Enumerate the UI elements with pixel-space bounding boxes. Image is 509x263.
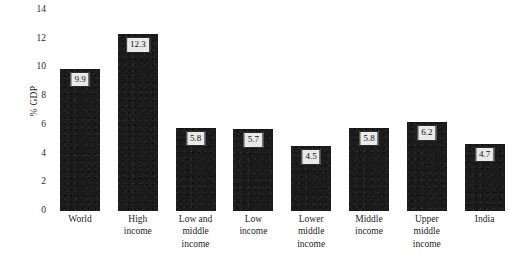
- y-tick-label-12: 12: [20, 34, 46, 44]
- x-axis-category-line: income: [283, 238, 339, 250]
- y-tick-label-10: 10: [20, 62, 46, 72]
- x-axis-category-line: income: [341, 225, 397, 237]
- bar-value-label: 4.7: [475, 147, 494, 163]
- bar-value-label: 9.9: [70, 72, 89, 88]
- x-axis-category-label: World: [52, 213, 108, 263]
- bar[interactable]: 5.8: [176, 128, 216, 211]
- y-tick-label-6: 6: [20, 120, 46, 130]
- y-tick-label-8: 8: [20, 91, 46, 101]
- bar-group: 4.7India: [457, 0, 509, 263]
- bar[interactable]: 4.7: [465, 144, 505, 211]
- y-tick-label-2: 2: [20, 177, 46, 187]
- bar-group: 12.3Highincome: [110, 0, 166, 263]
- bar-group: 4.5Lowermiddleincome: [283, 0, 339, 263]
- bar-value-label: 5.8: [186, 131, 205, 147]
- x-axis-category-line: income: [110, 225, 166, 237]
- bar-group: 5.8Middleincome: [341, 0, 397, 263]
- bar-value-label: 6.2: [417, 125, 436, 141]
- x-axis-category-label: Low andmiddleincome: [168, 213, 224, 263]
- bar[interactable]: 5.8: [349, 128, 389, 211]
- x-axis-category-line: income: [168, 238, 224, 250]
- bar[interactable]: 9.9: [60, 69, 100, 211]
- x-axis-category-line: income: [225, 225, 281, 237]
- x-axis-category-line: High: [110, 213, 166, 225]
- x-axis-category-line: middle: [168, 225, 224, 237]
- x-axis-category-line: Low and: [168, 213, 224, 225]
- y-tick-label-4: 4: [20, 149, 46, 159]
- bar-value-label: 4.5: [302, 149, 321, 165]
- x-axis-category-line: Low: [225, 213, 281, 225]
- bar-group: 5.8Low andmiddleincome: [168, 0, 224, 263]
- bar-group: 9.9World: [52, 0, 108, 263]
- x-axis-category-line: Lower: [283, 213, 339, 225]
- bar-value-label: 5.7: [244, 132, 263, 148]
- bar-group: 5.7Lowincome: [225, 0, 281, 263]
- x-axis-category-label: Uppermiddleincome: [399, 213, 455, 263]
- x-axis-category-label: Lowermiddleincome: [283, 213, 339, 263]
- x-axis-category-line: Upper: [399, 213, 455, 225]
- bar[interactable]: 12.3: [118, 34, 158, 211]
- y-tick-label-14: 14: [20, 5, 46, 15]
- bar[interactable]: 6.2: [407, 122, 447, 211]
- x-axis-category-label: Highincome: [110, 213, 166, 263]
- x-axis-category-label: Middleincome: [341, 213, 397, 263]
- bar-value-label: 12.3: [126, 37, 150, 53]
- x-axis-category-line: World: [52, 213, 108, 225]
- x-axis-category-line: Middle: [341, 213, 397, 225]
- y-tick-label-0: 0: [20, 206, 46, 216]
- x-axis-category-line: income: [399, 238, 455, 250]
- bar[interactable]: 4.5: [291, 146, 331, 211]
- plot-area: 9.9World12.3Highincome5.8Low andmiddlein…: [52, 0, 496, 263]
- x-axis-category-label: Lowincome: [225, 213, 281, 263]
- bar-value-label: 5.8: [359, 131, 378, 147]
- bar-group: 6.2Uppermiddleincome: [399, 0, 455, 263]
- x-axis-category-line: middle: [399, 225, 455, 237]
- x-axis-category-label: India: [457, 213, 509, 263]
- x-axis-category-line: India: [457, 213, 509, 225]
- bar[interactable]: 5.7: [233, 129, 273, 211]
- x-axis-category-line: middle: [283, 225, 339, 237]
